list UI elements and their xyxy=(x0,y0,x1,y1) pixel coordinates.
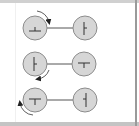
left-disc xyxy=(23,16,47,40)
frame-right-border xyxy=(135,0,137,126)
row-1 xyxy=(23,11,97,40)
right-disc xyxy=(72,52,96,76)
left-disc xyxy=(23,88,47,112)
right-disc xyxy=(73,16,97,40)
row-3 xyxy=(20,88,97,115)
row-2 xyxy=(23,52,96,79)
frame-left-border xyxy=(15,3,16,122)
diagram-frame xyxy=(0,0,139,126)
frame-top-border xyxy=(0,0,139,3)
right-disc xyxy=(73,88,97,112)
frame-bottom-border xyxy=(0,122,139,126)
left-disc xyxy=(23,52,47,76)
rotation-diagram xyxy=(0,0,139,126)
